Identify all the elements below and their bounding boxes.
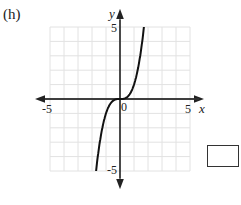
- graph: -5 5 x y 5 -5 0: [0, 0, 241, 205]
- x-tick-max: 5: [185, 102, 191, 116]
- answer-box[interactable]: [207, 145, 239, 167]
- y-tick-max: 5: [111, 21, 117, 35]
- origin-label: 0: [121, 100, 127, 114]
- x-axis-label: x: [198, 101, 205, 116]
- y-tick-min: -5: [107, 163, 117, 177]
- y-axis-label: y: [107, 6, 115, 21]
- x-tick-min: -5: [42, 102, 52, 116]
